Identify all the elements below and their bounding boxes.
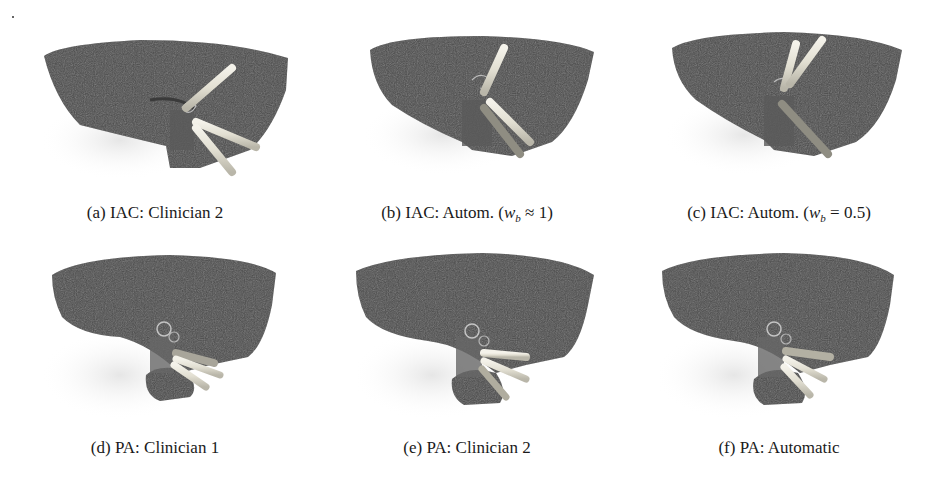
caption-label: (b) bbox=[381, 203, 401, 222]
caption-label: (e) bbox=[403, 438, 422, 457]
caption-text: IAC: Clinician 2 bbox=[110, 203, 223, 222]
subfigure-c: (c) IAC: Autom. (wb = 0.5) bbox=[624, 0, 934, 240]
caption-text: IAC: Autom. bbox=[710, 203, 799, 222]
caption-c: (c) IAC: Autom. (wb = 0.5) bbox=[624, 203, 934, 224]
caption-f: (f) PA: Automatic bbox=[624, 438, 934, 458]
brain-render-b bbox=[312, 0, 622, 200]
brain-render-f bbox=[624, 245, 934, 445]
caption-label: (c) bbox=[687, 203, 706, 222]
math-rel: ≈ 1 bbox=[525, 203, 547, 222]
caption-b: (b) IAC: Autom. (wb ≈ 1) bbox=[312, 203, 622, 224]
brain-render-a bbox=[0, 0, 310, 200]
subfigure-f: (f) PA: Automatic bbox=[624, 245, 934, 484]
brain-render-e bbox=[312, 245, 622, 445]
caption-math: (wb ≈ 1) bbox=[498, 203, 553, 222]
caption-text: PA: Clinician 2 bbox=[426, 438, 530, 457]
caption-label: (a) bbox=[87, 203, 106, 222]
caption-a: (a) IAC: Clinician 2 bbox=[0, 203, 310, 223]
caption-math: (wb = 0.5) bbox=[803, 203, 871, 222]
caption-e: (e) PA: Clinician 2 bbox=[312, 438, 622, 458]
caption-d: (d) PA: Clinician 1 bbox=[0, 438, 310, 458]
brain-render-c bbox=[624, 0, 934, 200]
subfigure-d: (d) PA: Clinician 1 bbox=[0, 245, 310, 484]
math-sub: b bbox=[820, 212, 826, 224]
subfigure-e: (e) PA: Clinician 2 bbox=[312, 245, 622, 484]
math-sub: b bbox=[515, 212, 521, 224]
math-var: w bbox=[809, 203, 820, 222]
subfigure-b: (b) IAC: Autom. (wb ≈ 1) bbox=[312, 0, 622, 240]
math-rel: = 0.5 bbox=[830, 203, 865, 222]
caption-label: (d) bbox=[91, 438, 111, 457]
caption-text: PA: Automatic bbox=[740, 438, 840, 457]
figure-grid: (a) IAC: Clinician 2 (b) IAC: Autom. (wb… bbox=[0, 0, 942, 484]
caption-text: IAC: Autom. bbox=[405, 203, 494, 222]
subfigure-a: (a) IAC: Clinician 2 bbox=[0, 0, 310, 240]
brain-render-d bbox=[0, 245, 310, 445]
math-var: w bbox=[504, 203, 515, 222]
caption-label: (f) bbox=[718, 438, 735, 457]
caption-text: PA: Clinician 1 bbox=[115, 438, 219, 457]
